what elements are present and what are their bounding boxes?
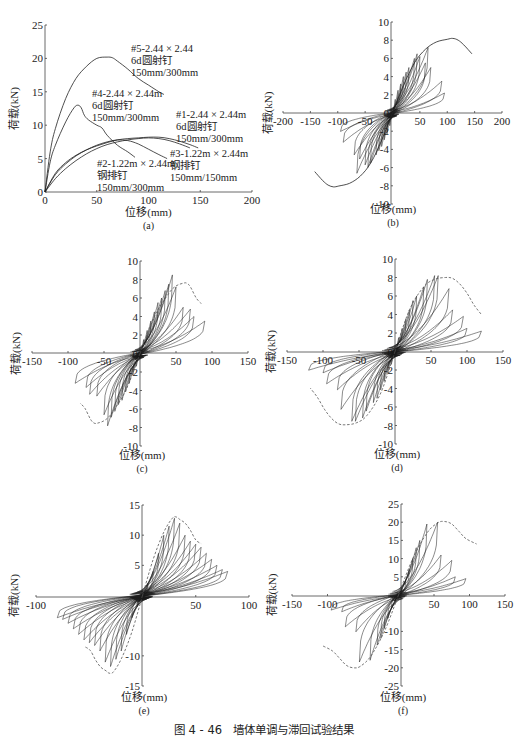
annotation-line: 6d圆射钉 <box>92 99 134 111</box>
y-tick-label: -4 <box>384 383 394 395</box>
y-tick-label: 10 <box>382 253 394 265</box>
y-tick-label: 6 <box>388 290 394 302</box>
y-tick-label: 6 <box>133 292 139 304</box>
y-tick-label: -20 <box>384 662 399 674</box>
x-tick-label: -200 <box>273 115 294 127</box>
x-tick-label: -150 <box>277 354 298 366</box>
y-tick-label: 8 <box>384 34 390 46</box>
x-tick-label: 0 <box>42 194 48 206</box>
y-tick-label: 2 <box>384 89 390 101</box>
annotation-line: 150mm/300mm <box>97 182 164 193</box>
curve-annotation: #4-2.44 × 2.44m6d圆射钉150mm/300mm <box>92 88 162 123</box>
panel-e: -10050100-15-1051015位移(mm)荷载(kN)(e) <box>8 499 258 717</box>
y-tick-label: -8 <box>129 422 139 434</box>
y-axis-label: 荷载(kN) <box>262 91 275 134</box>
y-tick-label: 4 <box>133 311 139 323</box>
x-tick-label: -50 <box>97 355 112 367</box>
y-tick-label: 8 <box>133 274 139 286</box>
y-tick-label: 25 <box>32 19 44 31</box>
annotation-line: #1-2.44 × 2.44m <box>176 109 246 120</box>
y-axis-label: 荷载(kN) <box>10 332 23 375</box>
x-tick-label: 150 <box>495 354 512 366</box>
y-tick-label: 15 <box>129 499 141 511</box>
curve-annotation: #3-1.22m × 2.44m钢排钉150mm/150mm <box>170 148 248 183</box>
x-tick-label: 50 <box>190 599 202 611</box>
x-tick-label: -100 <box>26 599 47 611</box>
curve-annotation: #2-1.22m × 2.44m钢排钉150mm/300mm <box>97 158 175 193</box>
x-tick-label: 150 <box>466 115 483 127</box>
panel-f: -150-10050100150-25-20-15-10510152025位移(… <box>266 498 514 717</box>
y-tick-label: 5 <box>394 571 400 583</box>
panel-label: (b) <box>387 217 399 229</box>
x-tick-label: 50 <box>171 355 183 367</box>
y-axis-label: 荷载(kN) <box>266 573 279 616</box>
y-tick-label: 0 <box>38 186 44 198</box>
annotation-line: 150mm/150mm <box>170 172 237 183</box>
curve-annotation: #5-2.44 × 2.446d圆射钉150mm/300mm <box>131 43 198 78</box>
y-tick-label: 15 <box>32 86 44 98</box>
x-tick-label: 100 <box>140 194 157 206</box>
panel-label: (f) <box>398 705 408 717</box>
y-tick-label: 4 <box>388 309 394 321</box>
annotation-line: #3-1.22m × 2.44m <box>170 148 248 159</box>
x-axis-label: 位移(mm) <box>380 690 427 704</box>
x-tick-label: 150 <box>240 355 257 367</box>
x-tick-label: -100 <box>328 115 349 127</box>
y-tick-label: 10 <box>378 16 390 28</box>
y-tick-label: -4 <box>129 385 139 397</box>
y-tick-label: 2 <box>133 329 139 341</box>
annotation-line: 150mm/300mm <box>131 67 198 78</box>
x-tick-label: -150 <box>22 355 43 367</box>
panel-d: -150-100-5050100150-10-8-6-4-20246810位移(… <box>265 253 512 474</box>
x-tick-label: 200 <box>494 115 511 127</box>
panel-label: (a) <box>143 220 154 232</box>
y-tick-label: 8 <box>388 272 394 284</box>
y-tick-label: -6 <box>384 401 394 413</box>
y-axis-label: 荷载(kN) <box>8 574 21 617</box>
figure-canvas: 0501001502000510152025位移(mm)荷载(kN)(a)#5-… <box>0 0 529 744</box>
y-tick-label: -15 <box>384 644 399 656</box>
panel-label: (c) <box>136 463 147 475</box>
x-tick-label: 150 <box>192 194 209 206</box>
x-tick-label: -150 <box>300 115 321 127</box>
y-tick-label: 10 <box>127 255 139 267</box>
annotation-line: 6d圆射钉 <box>131 54 173 66</box>
x-tick-label: 50 <box>414 115 426 127</box>
y-tick-label: -8 <box>380 180 390 192</box>
y-axis-label: 荷载(kN) <box>8 87 21 130</box>
y-tick-label: 2 <box>388 327 394 339</box>
annotation-line: #4-2.44 × 2.44m <box>92 88 162 99</box>
x-tick-label: 50 <box>426 354 438 366</box>
x-tick-label: 50 <box>429 598 441 610</box>
y-axis-label: 荷载(kN) <box>265 330 278 373</box>
y-tick-label: -10 <box>384 625 399 637</box>
curve-annotation: #1-2.44 × 2.44m6d圆射钉150mm/300mm <box>176 109 246 144</box>
figure-caption: 图 4 - 46 墙体单调与滞回试验结果 <box>174 723 355 737</box>
x-tick-label: 200 <box>244 194 261 206</box>
x-axis-label: 位移(mm) <box>119 448 166 462</box>
x-tick-label: 100 <box>439 115 456 127</box>
annotation-line: #5-2.44 × 2.44 <box>131 43 194 54</box>
panel-b: -200-150-100-5050100150200-10-8-6-4-2024… <box>262 16 511 229</box>
annotation-line: #2-1.22m × 2.44m <box>97 158 175 169</box>
y-tick-label: 15 <box>388 534 400 546</box>
y-tick-label: 10 <box>388 553 400 565</box>
annotation-line: 150mm/300mm <box>92 112 159 123</box>
y-tick-label: -10 <box>125 650 140 662</box>
annotation-line: 150mm/300mm <box>176 133 243 144</box>
y-tick-label: 5 <box>135 559 141 571</box>
y-tick-label: -6 <box>380 162 390 174</box>
annotation-line: 钢排钉 <box>170 159 201 171</box>
x-axis-label: 位移(mm) <box>374 447 421 461</box>
x-tick-label: -150 <box>282 598 303 610</box>
panel-label: (d) <box>391 462 403 474</box>
x-tick-label: 150 <box>497 598 514 610</box>
annotation-line: 6d圆射钉 <box>176 120 218 132</box>
y-tick-label: -8 <box>384 420 394 432</box>
panel-c: -150-100-5050100150-10-8-6-4-20246810位移(… <box>10 255 257 475</box>
y-tick-label: 5 <box>38 153 44 165</box>
y-tick-label: -4 <box>380 143 390 155</box>
y-tick-label: 20 <box>32 52 44 64</box>
x-tick-label: 50 <box>91 194 103 206</box>
x-tick-label: 100 <box>461 598 478 610</box>
